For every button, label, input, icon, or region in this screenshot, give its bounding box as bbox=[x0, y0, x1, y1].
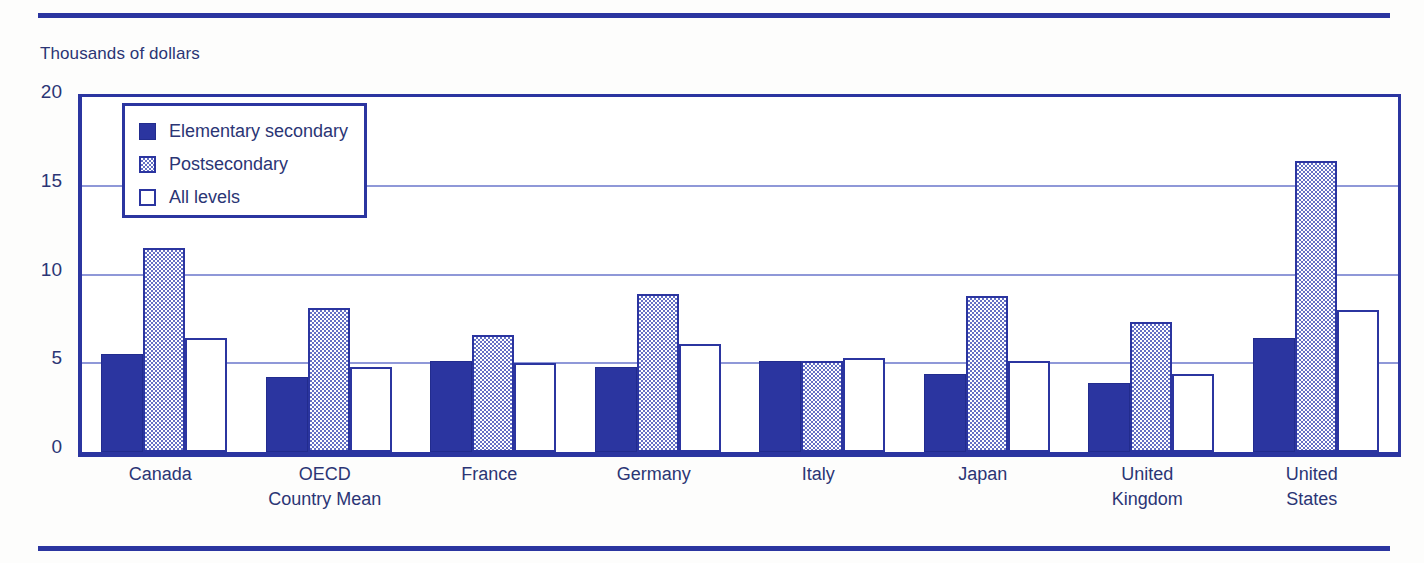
bar bbox=[101, 354, 143, 452]
bar bbox=[1253, 338, 1295, 452]
y-tick-label-20: 20 bbox=[0, 81, 62, 103]
bar-group bbox=[759, 97, 885, 452]
bar bbox=[1295, 161, 1337, 452]
bar bbox=[1172, 374, 1214, 452]
bar bbox=[637, 294, 679, 452]
bar bbox=[1088, 383, 1130, 452]
y-axis-unit-caption: Thousands of dollars bbox=[40, 44, 200, 64]
top-divider-rule bbox=[38, 13, 1390, 18]
bar bbox=[185, 338, 227, 452]
bar bbox=[843, 358, 885, 452]
x-axis-label: United Kingdom bbox=[1065, 462, 1230, 512]
bar bbox=[514, 363, 556, 452]
bar bbox=[679, 344, 721, 452]
bottom-divider-rule bbox=[38, 546, 1390, 551]
bar-group bbox=[430, 97, 556, 452]
y-tick-label-15: 15 bbox=[0, 170, 62, 192]
bar bbox=[924, 374, 966, 452]
legend-item[interactable]: Elementary secondary bbox=[125, 115, 364, 148]
x-axis-label: Italy bbox=[736, 462, 901, 487]
bar bbox=[472, 335, 514, 452]
chart-figure: Thousands of dollars 05101520 CanadaOECD… bbox=[0, 0, 1424, 563]
legend-item[interactable]: Postsecondary bbox=[125, 148, 364, 181]
x-axis-label: Germany bbox=[572, 462, 737, 487]
bar bbox=[143, 248, 185, 452]
bar-group bbox=[1253, 97, 1379, 452]
bar bbox=[595, 367, 637, 452]
x-axis-label: Japan bbox=[901, 462, 1066, 487]
y-tick-label-10: 10 bbox=[0, 259, 62, 281]
filled-dark-blue-square-icon bbox=[139, 123, 156, 140]
bar-group bbox=[595, 97, 721, 452]
legend-item[interactable]: All levels bbox=[125, 181, 364, 214]
x-axis-label: France bbox=[407, 462, 572, 487]
x-axis-label: United States bbox=[1230, 462, 1395, 512]
y-tick-label-5: 5 bbox=[0, 347, 62, 369]
bar bbox=[1008, 361, 1050, 452]
bar bbox=[801, 361, 843, 452]
x-axis-label: OECD Country Mean bbox=[243, 462, 408, 512]
bar bbox=[1130, 322, 1172, 452]
bar-group bbox=[1088, 97, 1214, 452]
bar bbox=[966, 296, 1008, 452]
legend-item-label: Postsecondary bbox=[169, 154, 288, 175]
open-white-square-icon bbox=[139, 189, 156, 206]
bar bbox=[266, 377, 308, 452]
legend-item-label: Elementary secondary bbox=[169, 121, 348, 142]
bar bbox=[308, 308, 350, 452]
bar bbox=[1337, 310, 1379, 452]
bar-group bbox=[924, 97, 1050, 452]
dithered-light-blue-square-icon bbox=[139, 156, 156, 173]
bar bbox=[430, 361, 472, 452]
bar bbox=[350, 367, 392, 452]
bar bbox=[759, 361, 801, 452]
chart-legend: Elementary secondaryPostsecondaryAll lev… bbox=[122, 103, 367, 218]
y-tick-label-0: 0 bbox=[0, 436, 62, 458]
legend-item-label: All levels bbox=[169, 187, 240, 208]
x-axis-label: Canada bbox=[78, 462, 243, 487]
